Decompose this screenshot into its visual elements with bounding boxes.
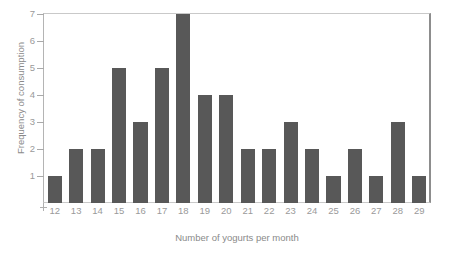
y-axis-tick [37, 68, 44, 69]
x-axis-tick-label: 28 [387, 205, 408, 217]
x-axis-tick-label: 25 [323, 205, 344, 217]
x-axis-tick-label: 26 [344, 205, 365, 217]
bar [284, 122, 298, 203]
y-axis-tick [37, 176, 44, 177]
y-axis-tick-label: 6 [22, 36, 35, 45]
x-axis-tick-label: 15 [108, 205, 129, 217]
y-axis-tick-label: 2 [22, 144, 35, 153]
bar-series [44, 14, 430, 203]
y-axis-tick-label: 5 [22, 63, 35, 72]
histogram-figure: Frequency of consumption 121314151617181… [0, 0, 453, 254]
bar [262, 149, 276, 203]
bar [155, 68, 169, 203]
bar [369, 176, 383, 203]
x-axis-tick-label: 18 [173, 205, 194, 217]
x-axis-tick-label: 13 [65, 205, 86, 217]
x-axis-tick-label: 27 [366, 205, 387, 217]
bar [219, 95, 233, 203]
x-axis-tick-label: 22 [258, 205, 279, 217]
bar [91, 149, 105, 203]
bar [133, 122, 147, 203]
x-axis-tick-label: 12 [44, 205, 65, 217]
y-axis-tick-label: 4 [22, 90, 35, 99]
clipped-caption-artifact [0, 0, 453, 8]
bar [348, 149, 362, 203]
y-axis-title: Frequency of consumption [14, 0, 27, 198]
x-axis-tick-label: 24 [301, 205, 322, 217]
x-axis-tick-label: 23 [280, 205, 301, 217]
y-axis-tick-label: 1 [22, 171, 35, 180]
bar [112, 68, 126, 203]
x-axis-tick-label: 20 [216, 205, 237, 217]
bar [241, 149, 255, 203]
y-axis-tick [37, 122, 44, 123]
y-axis-tick [37, 41, 44, 42]
x-axis-tick-label: 14 [87, 205, 108, 217]
bar [305, 149, 319, 203]
bar [48, 176, 62, 203]
bar [69, 149, 83, 203]
x-axis-tick-label: 29 [409, 205, 430, 217]
bar [326, 176, 340, 203]
bar [176, 14, 190, 203]
x-axis-tick-label: 17 [151, 205, 172, 217]
x-axis-tick-label: 16 [130, 205, 151, 217]
bar [412, 176, 426, 203]
y-axis-tick-label: 3 [22, 117, 35, 126]
y-axis-tick-label: 7 [22, 9, 35, 18]
y-axis-tick [37, 149, 44, 150]
x-axis-title: Number of yogurts per month [43, 232, 431, 243]
x-axis-tick-label: 21 [237, 205, 258, 217]
x-axis-tick-label: 19 [194, 205, 215, 217]
x-axis-tick-labels: 121314151617181920212223242526272829 [44, 205, 430, 219]
y-axis-tick [37, 14, 44, 15]
y-axis-tick [37, 95, 44, 96]
bar [198, 95, 212, 203]
bar [391, 122, 405, 203]
